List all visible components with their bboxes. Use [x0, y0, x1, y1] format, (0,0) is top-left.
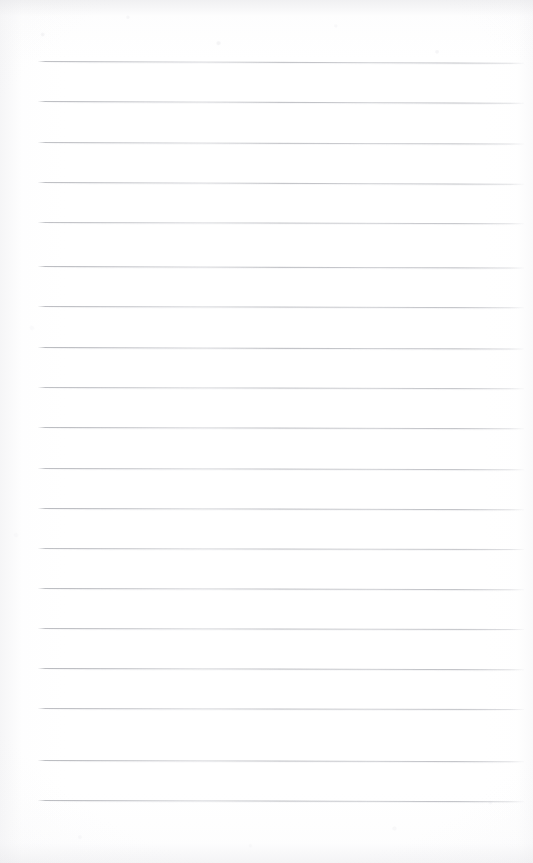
scanned-page: [0, 0, 533, 863]
paper-background: [0, 0, 533, 863]
